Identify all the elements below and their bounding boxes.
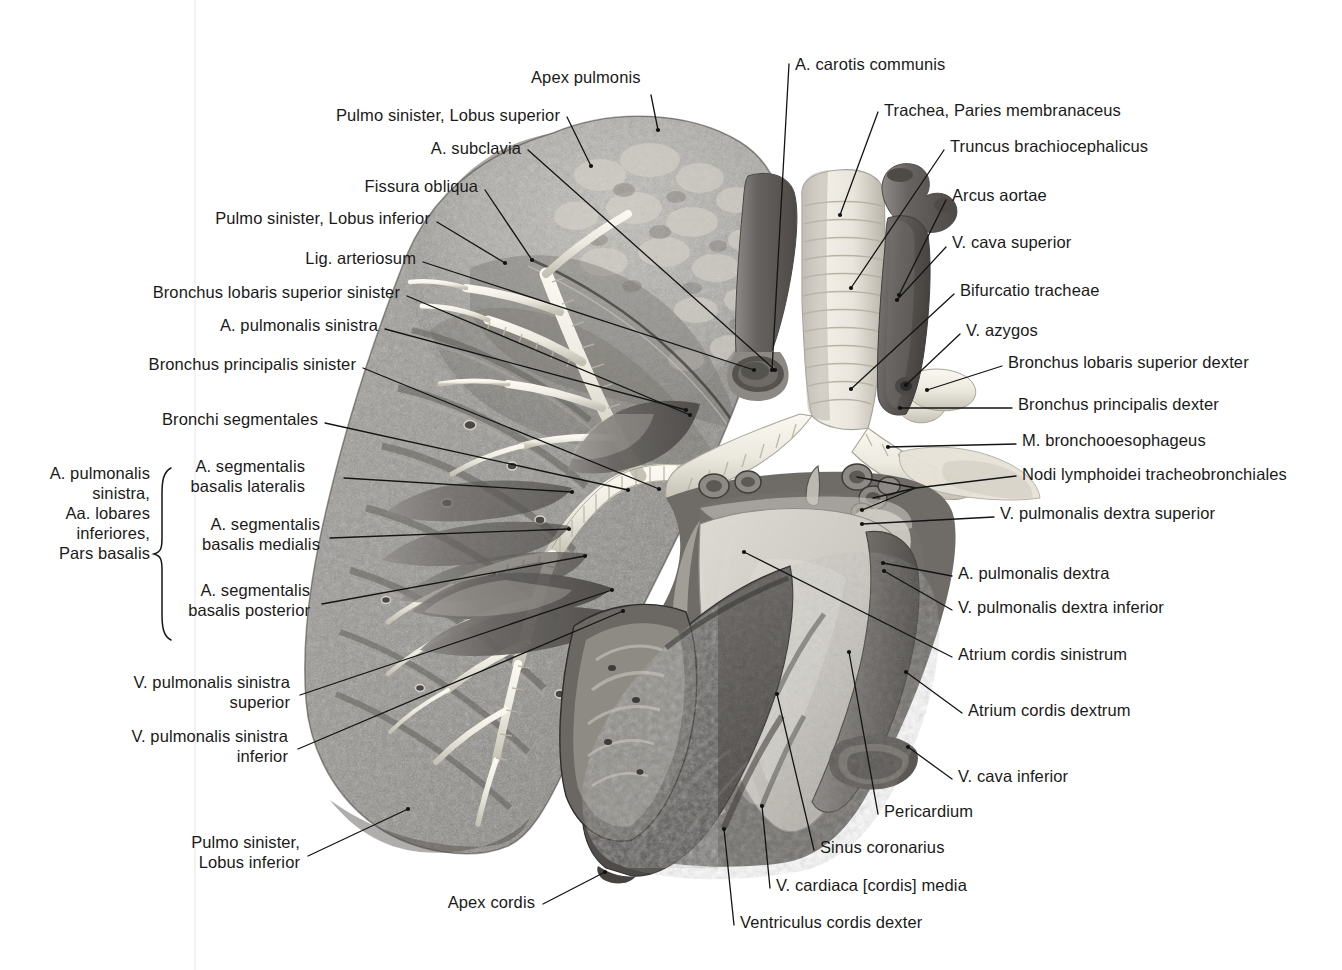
label-truncus-brachiocephalicus: Truncus brachiocephalicus bbox=[950, 136, 1148, 156]
leader-dot-apex-cordis bbox=[603, 870, 607, 874]
label-arcus-aortae: Arcus aortae bbox=[952, 185, 1047, 205]
label-trachea-paries-membranaceus: Trachea, Paries membranaceus bbox=[884, 100, 1121, 120]
label-fissura-obliqua: Fissura obliqua bbox=[365, 176, 478, 196]
leader-dot-pulmo-sinister-lobus-inferior-top bbox=[503, 261, 507, 265]
label-v-cava-superior: V. cava superior bbox=[952, 232, 1071, 252]
label-bronchus-lobaris-superior-dexter: Bronchus lobaris superior dexter bbox=[1008, 352, 1249, 372]
label-a-carotis-communis: A. carotis communis bbox=[795, 54, 945, 74]
label-nodi-lymphoidei-tracheobronchiales: Nodi lymphoidei tracheobronchiales bbox=[1022, 464, 1287, 484]
leader-dot-v-azygos bbox=[904, 383, 908, 387]
leader-dot-fissura-obliqua bbox=[530, 258, 534, 262]
label-atrium-cordis-dextrum: Atrium cordis dextrum bbox=[968, 700, 1131, 720]
label-pulmo-sinister-lobus-superior: Pulmo sinister, Lobus superior bbox=[336, 105, 560, 125]
label-pericardium: Pericardium bbox=[884, 801, 973, 821]
label-pulmo-sinister-lobus-inferior-bottom: Pulmo sinister, Lobus inferior bbox=[191, 832, 300, 872]
leader-dot-a-segmentalis-basalis-posterior bbox=[583, 554, 587, 558]
label-m-bronchooesophageus: M. bronchooesophageus bbox=[1022, 430, 1206, 450]
label-bronchus-principalis-dexter: Bronchus principalis dexter bbox=[1018, 394, 1219, 414]
leader-dot-pulmo-sinister-lobus-superior bbox=[589, 164, 593, 168]
leader-dot-bronchus-principalis-sinister bbox=[657, 487, 661, 491]
leader-dot-a-segmentalis-basalis-lateralis bbox=[570, 490, 574, 494]
leader-dot-v-pulmonalis-sinistra-superior bbox=[610, 588, 614, 592]
label-a-pulmonalis-sinistra-group: A. pulmonalis sinistra, Aa. lobares infe… bbox=[50, 463, 150, 563]
label-bronchi-segmentales: Bronchi segmentales bbox=[162, 409, 318, 429]
leader-dot-m-bronchooesophageus bbox=[886, 445, 890, 449]
leader-dot-v-pulmonalis-dextra-superior bbox=[860, 522, 864, 526]
leader-dot-arcus-aortae bbox=[897, 293, 901, 297]
label-v-pulmonalis-dextra-inferior: V. pulmonalis dextra inferior bbox=[958, 597, 1164, 617]
leader-dot-apex-pulmonis bbox=[656, 128, 660, 132]
label-a-segmentalis-basalis-lateralis: A. segmentalis basalis lateralis bbox=[190, 456, 305, 496]
label-group-brace bbox=[154, 468, 171, 640]
label-v-pulmonalis-sinistra-superior: V. pulmonalis sinistra superior bbox=[133, 672, 290, 712]
label-pulmo-sinister-lobus-inferior-top: Pulmo sinister, Lobus inferior bbox=[215, 208, 430, 228]
leader-dot-a-segmentalis-basalis-medialis bbox=[567, 527, 571, 531]
label-apex-pulmonis: Apex pulmonis bbox=[531, 67, 641, 87]
leader-dot-pericardium bbox=[847, 650, 851, 654]
leader-dot-nodi-lymphoidei-tracheobronchiales bbox=[860, 508, 864, 512]
label-ventriculus-cordis-dexter: Ventriculus cordis dexter bbox=[740, 912, 922, 932]
label-v-pulmonalis-sinistra-inferior: V. pulmonalis sinistra inferior bbox=[131, 726, 288, 766]
leader-dot-a-pulmonalis-sinistra bbox=[684, 408, 688, 412]
label-sinus-coronarius: Sinus coronarius bbox=[820, 837, 945, 857]
label-group-brace-path bbox=[154, 468, 171, 640]
leader-dot-sinus-coronarius bbox=[775, 692, 779, 696]
leader-dot-lig-arteriosum bbox=[752, 368, 756, 372]
leader-dot-pulmo-sinister-lobus-inferior-bottom bbox=[406, 807, 410, 811]
leader-dot-bronchus-principalis-dexter bbox=[898, 406, 902, 410]
label-a-pulmonalis-sinistra: A. pulmonalis sinistra bbox=[220, 315, 378, 335]
leader-m-bronchooesophageus bbox=[888, 444, 1016, 447]
figure-page: Pulmo sinister, Lobus superiorA. subclav… bbox=[0, 0, 1342, 970]
leader-dot-atrium-cordis-dextrum bbox=[904, 670, 908, 674]
label-v-cava-inferior: V. cava inferior bbox=[958, 766, 1068, 786]
leader-dot-v-cava-superior bbox=[895, 298, 899, 302]
leader-dot-v-pulmonalis-sinistra-inferior bbox=[621, 609, 625, 613]
leader-dot-bifurcatio-tracheae bbox=[849, 387, 853, 391]
label-v-azygos: V. azygos bbox=[966, 320, 1038, 340]
label-bronchus-lobaris-superior-sinister: Bronchus lobaris superior sinister bbox=[153, 282, 400, 302]
leader-dot-atrium-cordis-sinistrum bbox=[742, 550, 746, 554]
leader-dot-truncus-brachiocephalicus bbox=[849, 286, 853, 290]
leader-apex-cordis bbox=[543, 872, 605, 904]
label-v-cardiaca-cordis-media: V. cardiaca [cordis] media bbox=[776, 875, 967, 895]
leader-dot-v-pulmonalis-dextra-inferior bbox=[882, 569, 886, 573]
leader-dot-trachea-paries-membranaceus bbox=[838, 213, 842, 217]
leader-dot-bronchi-segmentales bbox=[626, 488, 630, 492]
label-lig-arteriosum: Lig. arteriosum bbox=[305, 248, 416, 268]
label-apex-cordis: Apex cordis bbox=[448, 892, 535, 912]
label-bifurcatio-tracheae: Bifurcatio tracheae bbox=[960, 280, 1099, 300]
label-a-segmentalis-basalis-medialis: A. segmentalis basalis medialis bbox=[202, 514, 320, 554]
leader-dot-v-cardiaca-cordis-media bbox=[760, 804, 764, 808]
leader-dot-a-pulmonalis-dextra bbox=[881, 561, 885, 565]
leader-dot-a-subclavia bbox=[773, 368, 777, 372]
label-a-subclavia: A. subclavia bbox=[431, 138, 521, 158]
leader-dot-ventriculus-cordis-dexter bbox=[722, 827, 726, 831]
label-a-pulmonalis-dextra: A. pulmonalis dextra bbox=[958, 563, 1110, 583]
label-atrium-cordis-sinistrum: Atrium cordis sinistrum bbox=[958, 644, 1127, 664]
leader-dot-bronchus-lobaris-superior-sinister bbox=[688, 413, 692, 417]
label-a-segmentalis-basalis-posterior: A. segmentalis basalis posterior bbox=[188, 580, 310, 620]
label-bronchus-principalis-sinister: Bronchus principalis sinister bbox=[149, 354, 356, 374]
label-v-pulmonalis-dextra-superior: V. pulmonalis dextra superior bbox=[1000, 503, 1215, 523]
leader-dot-v-cava-inferior bbox=[906, 745, 910, 749]
leader-dot-bronchus-lobaris-superior-dexter bbox=[925, 388, 929, 392]
